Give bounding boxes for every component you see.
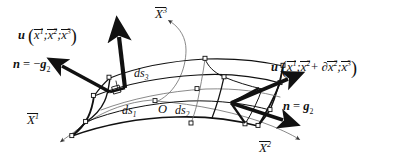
u-right-close-paren: ): [351, 58, 357, 78]
u-right-arg3: x3: [342, 60, 351, 74]
node-marker: [195, 87, 199, 91]
n-left-vector-arrow: [62, 66, 110, 92]
u-right-increment-op: + ∂: [310, 60, 328, 74]
ds1-label: ds1: [122, 104, 136, 116]
node-marker: [268, 108, 272, 112]
diagram-canvas: [0, 0, 407, 165]
u-left-vector-label: u (x1;x2;x3): [18, 27, 77, 45]
node-marker: [84, 119, 88, 123]
ds3-label: ds3: [134, 67, 148, 79]
figure-root: u (x1;x2;x3) n = −g2 u (x1;x2+ ∂x2;x3) n…: [0, 0, 407, 165]
n-left-g-subscript: 2: [47, 65, 51, 74]
ds3-subscript: 3: [145, 73, 149, 82]
x3-axis-label: X3: [155, 6, 167, 20]
node-marker: [203, 56, 207, 60]
node-marker: [70, 134, 74, 138]
u-right-arg2: x2: [301, 60, 310, 74]
node-marker: [153, 99, 157, 103]
u-right-arg1: x1: [287, 60, 296, 74]
ds2-label: ds2: [175, 104, 189, 116]
u-left-arg1: x1: [34, 28, 43, 42]
u-left-close-paren: ): [71, 26, 77, 46]
volume-element-group: [72, 59, 283, 136]
ds2-subscript: 2: [186, 110, 190, 119]
origin-label: O: [158, 103, 167, 116]
ds1-subscript: 1: [133, 110, 137, 119]
node-marker: [107, 75, 111, 79]
bottom-face-front-edge: [72, 117, 258, 136]
n-left-equals: =: [23, 57, 30, 71]
u-right-vector-label: u (x1;x2+ ∂x2;x3): [271, 59, 357, 77]
ds3-base: ds: [134, 66, 145, 80]
right-face-inner-curve: [212, 77, 224, 118]
n-left-symbol: n: [13, 57, 20, 71]
n-right-symbol: n: [283, 99, 290, 113]
ds1-base: ds: [122, 103, 133, 117]
u-right-symbol: u: [271, 60, 278, 74]
u-left-arg3: x3: [61, 28, 70, 42]
n-right-vector-arrow: [231, 103, 283, 120]
n-right-equals: =: [293, 99, 300, 113]
x1-axis-base: X1: [27, 112, 39, 126]
x2-axis-base: X2: [259, 140, 271, 154]
node-marker: [189, 121, 193, 125]
node-marker: [222, 75, 226, 79]
node-marker: [91, 93, 95, 97]
u-left-symbol: u: [18, 28, 25, 42]
x2-axis-label: X2: [259, 140, 271, 154]
n-right-vector-label: n = g2: [283, 100, 313, 113]
x1-axis-label: X1: [27, 112, 39, 126]
n-left-vector-label: n = −g2: [13, 58, 50, 71]
x3-axis-base: X3: [155, 6, 167, 20]
u-left-arg2: x2: [48, 28, 57, 42]
n-right-g-subscript: 2: [310, 107, 314, 116]
u-right-increment-arg: x2: [328, 60, 337, 74]
ds2-base: ds: [175, 103, 186, 117]
node-marker: [256, 123, 260, 127]
u-left-vector-arrow: [119, 37, 125, 88]
